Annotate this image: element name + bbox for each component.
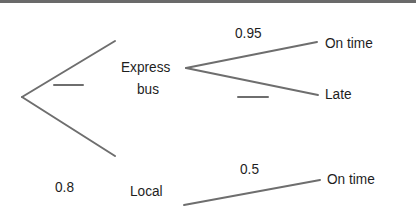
node-express-bus-line2: bus: [137, 80, 159, 98]
node-local-ontime: On time: [327, 170, 375, 188]
branch-express-late: [186, 68, 318, 95]
probability-local-ontime: 0.5: [240, 160, 259, 178]
branch-local-ontime: [184, 180, 320, 205]
probability-local: 0.8: [55, 178, 74, 196]
node-local: Local: [130, 182, 163, 200]
node-express-ontime: On time: [325, 34, 373, 52]
branch-express-ontime: [186, 42, 317, 68]
node-express-late: Late: [325, 85, 352, 103]
branch-root-express: [22, 41, 115, 97]
node-express-bus-line1: Express: [121, 58, 170, 76]
probability-express-ontime: 0.95: [235, 24, 262, 42]
tree-diagram: Express bus 0.95 On time Late 0.8 Local …: [0, 0, 416, 207]
branch-root-local: [22, 97, 115, 156]
